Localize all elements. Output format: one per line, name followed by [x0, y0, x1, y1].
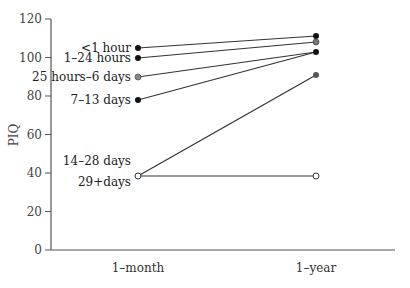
y-tick-20: 20 — [27, 205, 42, 219]
y-tick-40: 40 — [27, 166, 42, 180]
markers-1-year — [313, 33, 319, 179]
y-tick-80: 80 — [27, 89, 42, 103]
series-lines — [138, 36, 316, 176]
label-14-28-days: 14–28 days — [63, 154, 131, 168]
y-tick-0: 0 — [34, 243, 42, 257]
marker — [135, 74, 141, 80]
marker — [313, 33, 319, 39]
marker — [135, 97, 141, 103]
label-1-24-hours: 1–24 hours — [64, 51, 131, 65]
y-axis-label: PIQ — [7, 124, 21, 147]
marker-open — [135, 173, 141, 179]
marker — [313, 72, 319, 78]
x-tick-1-month: 1–month — [112, 261, 165, 275]
label-29-plus-days: 29+days — [78, 175, 131, 189]
series-labels: <1 hour 1–24 hours 25 hours–6 days 7–13 … — [32, 41, 131, 189]
marker — [135, 45, 141, 51]
y-tick-labels: 0 20 40 60 80 100 120 — [19, 12, 42, 257]
y-tick-120: 120 — [19, 12, 42, 26]
marker-open — [313, 173, 319, 179]
label-7-13-days: 7–13 days — [71, 93, 132, 107]
line-7-13-days — [138, 52, 316, 100]
label-25h-6-days: 25 hours–6 days — [32, 70, 131, 84]
marker — [135, 55, 141, 61]
markers-1-month — [135, 45, 141, 179]
y-tick-60: 60 — [27, 128, 42, 142]
line-14-28-days — [138, 75, 316, 176]
y-tick-100: 100 — [19, 51, 42, 65]
marker — [313, 49, 319, 55]
y-ticks — [45, 19, 51, 250]
marker — [313, 39, 319, 45]
line-lt-1-hour — [138, 36, 316, 48]
chart: 0 20 40 60 80 100 120 PIQ 1–month 1–year… — [0, 0, 410, 288]
x-tick-1-year: 1–year — [296, 261, 337, 275]
